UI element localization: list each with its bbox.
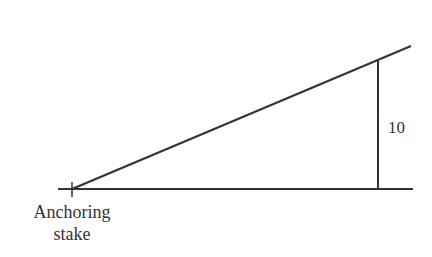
slanted-line (72, 46, 411, 189)
stake-label-line1: Anchoring (34, 202, 111, 222)
height-label: 10 (388, 118, 405, 137)
stake-label-line2: stake (54, 224, 91, 244)
triangle-diagram: 10 Anchoring stake (0, 0, 432, 257)
